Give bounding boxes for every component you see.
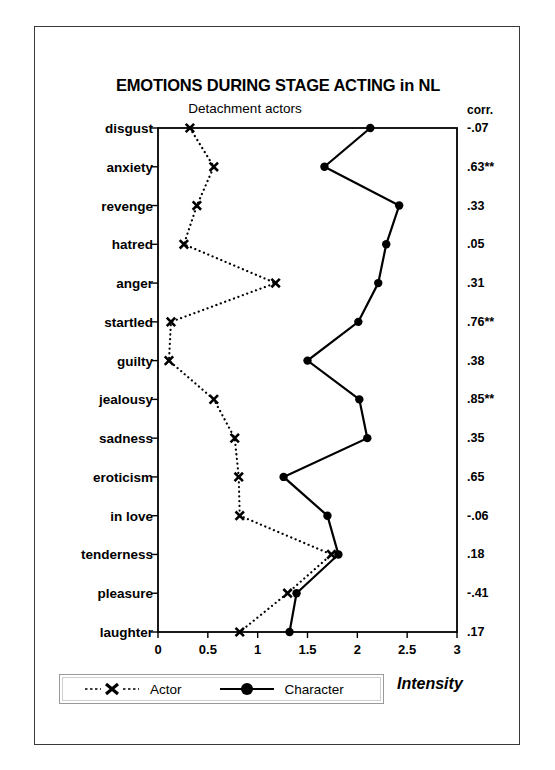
category-label-tenderness: tenderness [43,547,153,562]
category-label-eroticism: eroticism [43,469,153,484]
category-label-sadness: sadness [43,431,153,446]
category-label-in-love: in love [43,508,153,523]
category-label-anxiety: anxiety [43,159,153,174]
category-label-disgust: disgust [43,121,153,136]
xtick-label-0: 0 [154,642,161,657]
category-label-guilty: guilty [43,353,153,368]
category-label-startled: startled [43,314,153,329]
correlation-value-anger: .31 [467,276,484,290]
xtick-label-3: 3 [453,642,460,657]
correlation-value-revenge: .33 [467,199,484,213]
category-label-pleasure: pleasure [43,586,153,601]
correlation-value-sadness: .35 [467,431,484,445]
figure-frame: EMOTIONS DURING STAGE ACTING in NL Detac… [34,26,520,745]
correlation-value-anxiety: .63** [467,160,494,174]
correlation-value-jealousy: .85** [467,392,494,406]
category-label-anger: anger [43,276,153,291]
legend: Actor Character [59,674,384,704]
correlation-value-pleasure: -.41 [467,586,489,600]
correlation-value-startled: .76** [467,315,494,329]
correlation-value-disgust: -.07 [467,121,489,135]
correlation-value-in-love: -.06 [467,509,489,523]
character-marker-icon [218,681,276,697]
correlation-value-eroticism: .65 [467,470,484,484]
legend-item-character: Character [218,681,344,697]
category-label-jealousy: jealousy [43,392,153,407]
xtick-label-0-5: 0.5 [199,642,217,657]
actor-marker-icon [83,681,141,697]
xtick-label-2-5: 2.5 [398,642,416,657]
correlation-value-laughter: .17 [467,625,484,639]
xtick-label-2: 2 [354,642,361,657]
category-label-laughter: laughter [43,625,153,640]
x-axis-title: Intensity [397,675,463,693]
xtick-label-1: 1 [254,642,261,657]
category-label-revenge: revenge [43,198,153,213]
correlation-value-tenderness: .18 [467,547,484,561]
legend-item-actor: Actor [83,681,182,697]
legend-label-character: Character [285,682,344,697]
correlation-value-guilty: .38 [467,354,484,368]
xtick-label-1-5: 1.5 [298,642,316,657]
legend-inner-border: Actor Character [62,677,381,701]
category-label-hatred: hatred [43,237,153,252]
correlation-value-hatred: .05 [467,237,484,251]
legend-label-actor: Actor [150,682,182,697]
